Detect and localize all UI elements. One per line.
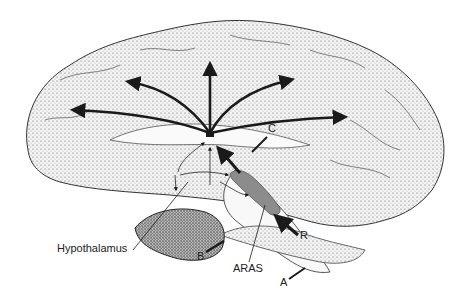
label-b: B	[197, 251, 204, 262]
thalamus-marker	[206, 132, 214, 137]
label-a: A	[280, 277, 287, 288]
label-r: R	[300, 230, 308, 241]
label-c: C	[268, 123, 276, 134]
label-hypothalamus: Hypothalamus	[57, 243, 127, 254]
cerebellum	[135, 209, 224, 260]
label-aras: ARAS	[233, 263, 263, 274]
leader-a	[289, 268, 305, 279]
